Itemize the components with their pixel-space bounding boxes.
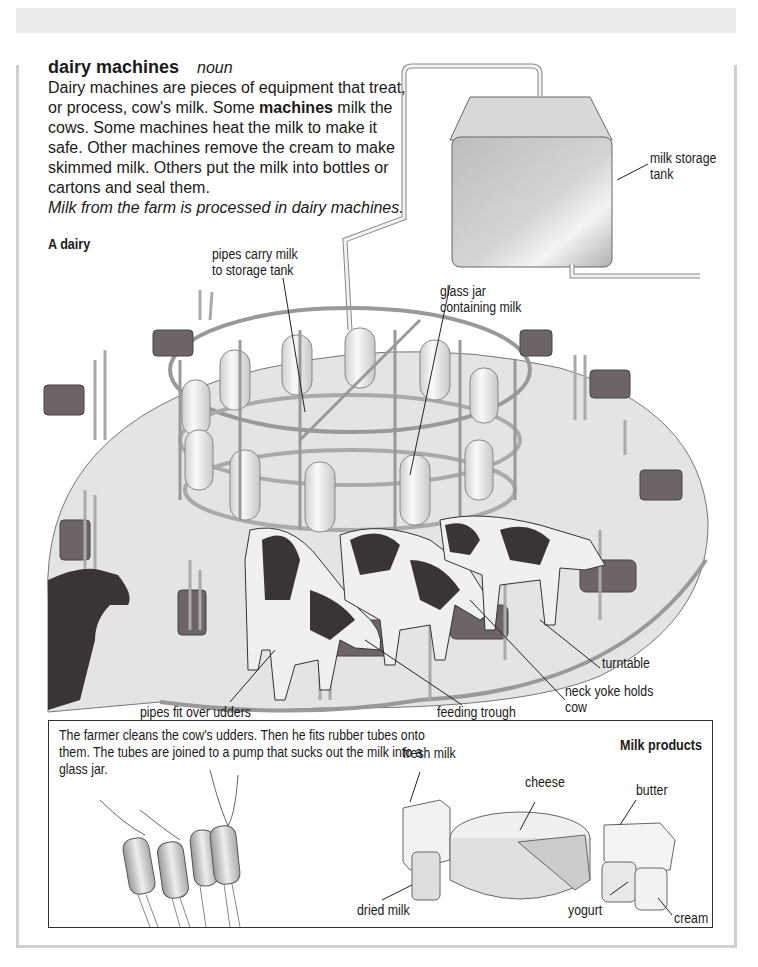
milk-products-title: Milk products xyxy=(620,737,702,753)
label-feeding-trough: feeding trough xyxy=(437,704,516,720)
label-milk-storage-tank: milk storage tank xyxy=(650,150,716,182)
definition: Dairy machines are pieces of equipment t… xyxy=(48,78,408,198)
milking-explanation: The farmer cleans the cow's udders. Then… xyxy=(59,727,429,778)
milking-and-products-panel: The farmer cleans the cow's udders. Then… xyxy=(48,720,713,928)
label-cream: cream xyxy=(674,910,708,926)
illustration-title: A dairy xyxy=(48,236,90,252)
entry-heading: dairy machinesnoun xyxy=(48,57,408,78)
label-neck-yoke: neck yoke holds cow xyxy=(565,683,653,715)
definition-keyword: machines xyxy=(259,99,333,116)
label-pipes-carry-milk: pipes carry milk to storage tank xyxy=(212,246,298,278)
label-dried-milk: dried milk xyxy=(357,902,410,918)
label-turntable: turntable xyxy=(602,655,650,671)
label-cheese: cheese xyxy=(525,774,565,790)
label-yogurt: yogurt xyxy=(568,902,602,918)
label-butter: butter xyxy=(636,782,668,798)
label-glass-jar: glass jar containing milk xyxy=(440,283,521,315)
dictionary-entry: dairy machinesnoun Dairy machines are pi… xyxy=(48,57,408,218)
label-pipes-fit-over-udders: pipes fit over udders xyxy=(140,704,251,720)
headword: dairy machines xyxy=(48,57,179,77)
part-of-speech: noun xyxy=(197,59,233,76)
label-fresh-milk: fresh milk xyxy=(403,745,456,761)
example-sentence: Milk from the farm is processed in dairy… xyxy=(48,198,408,218)
